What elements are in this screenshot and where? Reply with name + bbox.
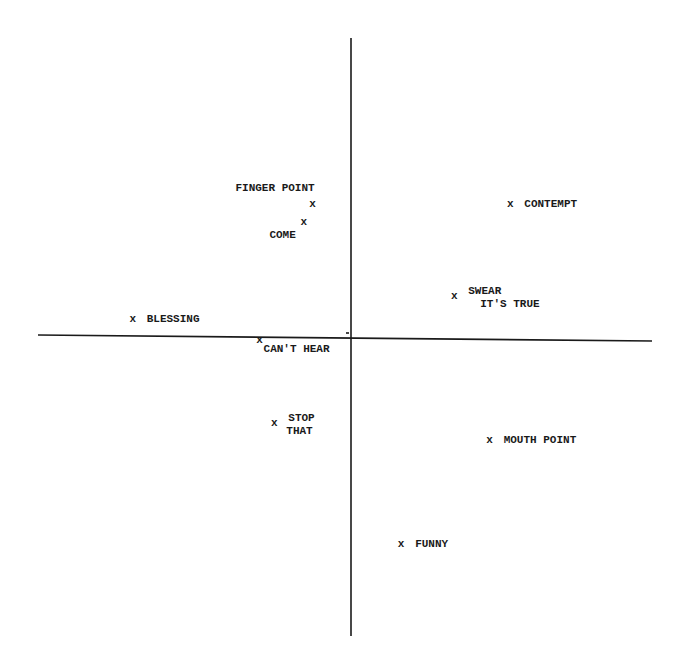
point-label: SWEAR [468,285,501,297]
data-point: xMOUTH POINT [486,434,576,446]
data-point: xCOME [269,216,307,241]
data-point: xFINGER POINT [235,182,316,210]
x-marker-icon: x [486,434,493,446]
x-marker-icon: x [129,313,136,325]
x-marker-icon: x [398,538,405,550]
data-point: xFUNNY [398,538,449,550]
x-marker-icon: x [256,334,263,346]
data-point: xSWEARIT'S TRUE [451,285,540,310]
point-label: BLESSING [147,313,200,325]
point-label: STOP [288,412,315,424]
point-label: THAT [286,425,313,437]
scatter-plot: xFINGER POINTxCOMExCONTEMPTxSWEARIT'S TR… [0,0,684,663]
data-point: xBLESSING [129,313,200,325]
point-label: FINGER POINT [235,182,315,194]
x-marker-icon: x [300,216,307,228]
point-label: COME [269,229,296,241]
point-label: MOUTH POINT [504,434,577,446]
point-label: FUNNY [415,538,448,550]
x-marker-icon: x [309,198,316,210]
x-axis [38,335,652,341]
x-marker-icon: x [271,417,278,429]
point-label: IT'S TRUE [480,298,540,310]
point-label: CONTEMPT [524,198,577,210]
x-marker-icon: x [507,198,514,210]
data-point: xSTOPTHAT [271,412,315,437]
data-points: xFINGER POINTxCOMExCONTEMPTxSWEARIT'S TR… [129,182,577,549]
x-marker-icon: x [451,290,458,302]
point-label: CAN'T HEAR [264,343,330,355]
data-point: xCONTEMPT [507,198,578,210]
